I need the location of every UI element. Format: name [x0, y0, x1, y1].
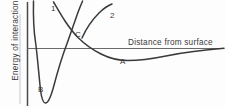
curve-1-label: 1 — [51, 4, 55, 13]
point-a-label: A — [120, 57, 125, 66]
y-axis-label: Energy of interaction — [11, 0, 20, 93]
potential-energy-diagram: Energy of interaction Distance from surf… — [0, 0, 225, 109]
point-b-label: B — [38, 85, 43, 94]
curve-2-label: 2 — [110, 11, 114, 20]
point-c-label: C — [75, 30, 81, 39]
curve-2-upper-arc — [82, 4, 112, 38]
x-axis-label: Distance from surface — [128, 38, 213, 47]
